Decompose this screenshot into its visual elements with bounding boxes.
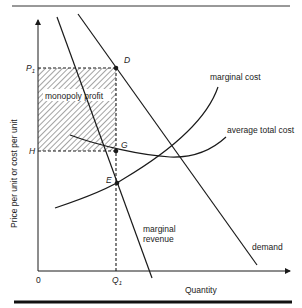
marginal-revenue-label-line2: revenue — [143, 234, 174, 244]
x-axis-title: Quantity — [185, 285, 217, 295]
point-d-label: D — [124, 55, 130, 65]
point-g-label: G — [121, 140, 128, 150]
point-g-marker — [114, 149, 119, 154]
origin-label: 0 — [36, 275, 41, 285]
point-d-marker — [114, 66, 119, 71]
q1-label: Q1 — [112, 275, 122, 286]
average-total-cost-label: average total cost — [227, 125, 295, 135]
p1-label: P1 — [26, 63, 35, 74]
marginal-revenue-label-line1: marginal — [143, 224, 176, 234]
h-label: H — [29, 146, 36, 156]
demand-label: demand — [252, 242, 283, 252]
point-e-marker — [115, 181, 120, 186]
monopoly-profit-diagram: D G E P1 H 0 Q1 monopoly profit marginal… — [0, 0, 302, 308]
marginal-cost-label: marginal cost — [210, 72, 261, 82]
monopoly-profit-region — [38, 68, 116, 151]
point-e-label: E — [106, 175, 112, 185]
y-axis-title: Price per unit or cost per unit — [9, 119, 19, 228]
monopoly-profit-label: monopoly profit — [45, 91, 104, 101]
